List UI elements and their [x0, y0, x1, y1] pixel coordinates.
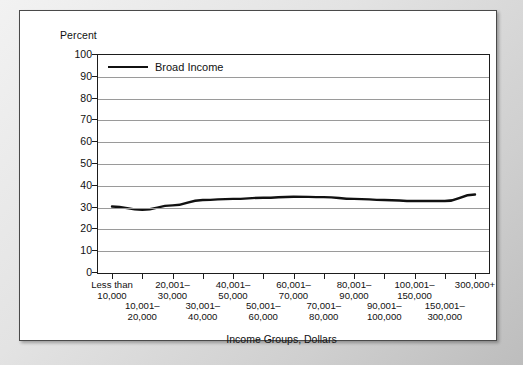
gridline-60: [98, 142, 489, 143]
x-category-label-4: 40,001–50,000: [216, 280, 251, 301]
x-category-label-line2: 300,000: [425, 312, 465, 323]
x-tick-mark-7: [324, 274, 325, 279]
gridline-50: [98, 164, 489, 165]
y-axis-title: Percent: [60, 29, 97, 41]
x-category-label-7: 70,001–80,000: [306, 301, 341, 322]
x-category-label-line1: 50,001–: [246, 301, 281, 312]
x-category-label-12: 300,000+: [455, 280, 495, 291]
y-tick-label-20: 20: [80, 222, 92, 234]
legend: Broad Income: [108, 61, 223, 73]
y-tick-label-70: 70: [80, 113, 92, 125]
y-tick-label-60: 60: [80, 135, 92, 147]
x-category-label-line2: 60,000: [246, 312, 281, 323]
y-axis-tick-labels: 0102030405060708090100: [60, 54, 92, 274]
x-category-label-line1: 90,001–: [367, 301, 402, 312]
x-category-label-line1: 100,001–: [394, 280, 434, 291]
x-category-label-6: 60,001–70,000: [276, 280, 311, 301]
x-axis-title: Income Groups, Dollars: [20, 333, 523, 345]
y-tick-label-40: 40: [80, 179, 92, 191]
x-category-label-5: 50,001–60,000: [246, 301, 281, 322]
x-tick-mark-9: [384, 274, 385, 279]
x-category-label-line2: 20,000: [125, 312, 160, 323]
x-category-label-0: Less than10,000: [91, 280, 133, 301]
y-tick-label-80: 80: [80, 92, 92, 104]
plot-area: [97, 54, 490, 274]
x-category-label-line2: 80,000: [306, 312, 341, 323]
x-category-label-11: 150,001–300,000: [425, 301, 465, 322]
gridline-20: [98, 229, 489, 230]
x-category-label-line2: 100,000: [367, 312, 402, 323]
x-tick-mark-3: [203, 274, 204, 279]
x-tick-mark-11: [445, 274, 446, 279]
x-category-label-line1: 80,001–: [337, 280, 372, 291]
chart-frame: Percent 0102030405060708090100 Broad Inc…: [19, 10, 497, 341]
y-tick-label-100: 100: [74, 48, 92, 60]
x-category-label-line1: 10,001–: [125, 301, 160, 312]
x-category-label-line1: 40,001–: [216, 280, 251, 291]
y-tick-label-90: 90: [80, 70, 92, 82]
gridline-40: [98, 186, 489, 187]
x-category-label-line1: 60,001–: [276, 280, 311, 291]
x-category-label-line1: 150,001–: [425, 301, 465, 312]
x-tick-mark-5: [263, 274, 264, 279]
x-tick-mark-1: [142, 274, 143, 279]
chart-figure: Percent 0102030405060708090100 Broad Inc…: [0, 0, 523, 365]
legend-label-broad-income: Broad Income: [155, 61, 223, 73]
gridline-70: [98, 120, 489, 121]
y-tick-label-30: 30: [80, 201, 92, 213]
x-category-label-line1: 300,000+: [455, 280, 495, 291]
legend-line-swatch-broad-income: [108, 66, 148, 69]
x-category-label-line1: 20,001–: [155, 280, 190, 291]
gridline-90: [98, 77, 489, 78]
x-category-label-line1: Less than: [91, 280, 133, 291]
x-axis-category-labels: Less than10,00010,001–20,00020,001–30,00…: [20, 280, 523, 330]
x-category-label-8: 80,001–90,000: [337, 280, 372, 301]
x-category-label-2: 20,001–30,000: [155, 280, 190, 301]
x-category-label-line2: 40,000: [185, 312, 220, 323]
x-category-label-1: 10,001–20,000: [125, 301, 160, 322]
gridline-10: [98, 251, 489, 252]
y-tick-label-50: 50: [80, 157, 92, 169]
gridline-80: [98, 99, 489, 100]
x-category-label-3: 30,001–40,000: [185, 301, 220, 322]
x-category-label-9: 90,001–100,000: [367, 301, 402, 322]
x-category-label-line1: 30,001–: [185, 301, 220, 312]
gridline-30: [98, 208, 489, 209]
x-category-label-line1: 70,001–: [306, 301, 341, 312]
y-tick-label-10: 10: [80, 244, 92, 256]
x-category-label-10: 100,001–150,000: [394, 280, 434, 301]
